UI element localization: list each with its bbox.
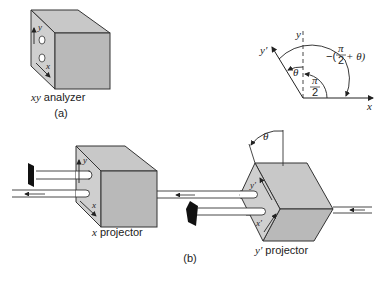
middle-beam: [157, 191, 252, 198]
xy-analyzer-axis-x: x: [45, 61, 50, 71]
x-projector-axis-x: x: [91, 200, 96, 210]
diagram-canvas: y x xy analyzer (a) y y′ x θ π 2 −( π 2 …: [0, 0, 386, 281]
y-projector-axis-y-prime: y′: [249, 180, 257, 190]
y-projector-axis-x-prime: x′: [255, 218, 263, 228]
y-projector-theta: θ: [263, 130, 269, 142]
x-projector-axis-y: y: [82, 155, 87, 165]
svg-text:−(: −(: [326, 50, 336, 62]
angle-axis-y: y: [295, 28, 301, 40]
svg-text:π: π: [338, 42, 344, 54]
svg-text:π: π: [312, 74, 318, 86]
right-input-beam: [333, 207, 372, 213]
x-projector-cube: [76, 146, 157, 227]
left-blocker: [28, 163, 34, 187]
right-blocker: [186, 201, 198, 226]
y-prime-projector-cube: [240, 163, 333, 241]
y-projector-label: y′ projector: [254, 244, 308, 256]
xy-analyzer-cube: [31, 10, 110, 89]
xy-analyzer-axis-y: y: [37, 22, 42, 32]
caption-a: (a): [54, 107, 67, 119]
angle-theta: θ: [293, 66, 299, 78]
angle-half-pi: π 2: [310, 74, 320, 98]
angle-diagram: [272, 31, 373, 98]
angle-axis-x: x: [366, 100, 372, 112]
svg-text:+ θ): + θ): [346, 50, 366, 63]
diagram-svg: y x xy analyzer (a) y y′ x θ π 2 −( π 2 …: [0, 0, 386, 281]
svg-text:2: 2: [338, 54, 344, 66]
angle-axis-y-prime: y′: [259, 44, 268, 56]
svg-text:2: 2: [312, 86, 318, 98]
caption-b: (b): [183, 252, 196, 264]
x-projector-label: x projector: [91, 226, 143, 238]
xy-analyzer-label: xy analyzer: [30, 91, 86, 103]
